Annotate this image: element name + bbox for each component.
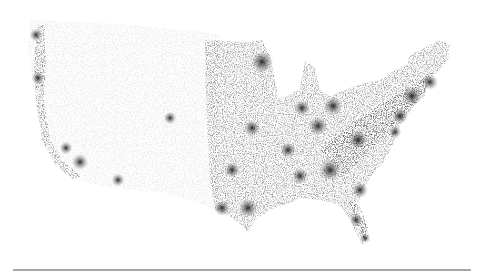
city-hotspot — [352, 182, 368, 198]
city-hotspot — [251, 51, 273, 73]
city-hotspot — [389, 126, 402, 139]
city-hotspot — [60, 142, 73, 155]
city-hotspot — [72, 154, 88, 170]
city-hotspot — [308, 116, 327, 135]
city-hotspot — [164, 112, 177, 125]
city-hotspot — [294, 100, 310, 116]
population-dot-map — [0, 0, 484, 270]
city-hotspot — [244, 120, 260, 136]
city-hotspot — [214, 200, 230, 216]
city-hotspot — [392, 108, 408, 124]
city-hotspot — [30, 29, 43, 42]
city-hotspot — [422, 74, 438, 90]
city-hotspot — [323, 96, 342, 115]
city-hotspot — [224, 162, 240, 178]
city-hotspot — [292, 168, 308, 184]
city-hotspot — [112, 174, 125, 187]
city-hotspot — [348, 130, 367, 149]
city-hotspot — [280, 142, 296, 158]
bottom-divider — [13, 269, 471, 271]
city-hotspot — [402, 86, 421, 105]
city-hotspot — [360, 233, 370, 243]
city-hotspot — [319, 159, 341, 181]
city-hotspot — [32, 72, 45, 85]
city-hotspot — [350, 214, 363, 227]
city-hotspot — [238, 198, 257, 217]
